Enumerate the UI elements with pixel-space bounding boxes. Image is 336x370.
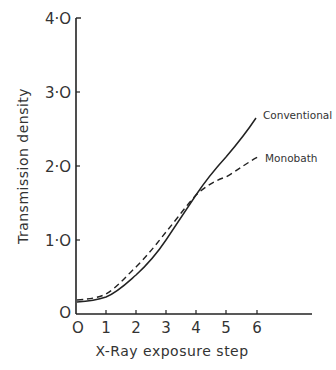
y-tick-labels: 4·O 3·O 2·O 1·O O (45, 10, 71, 322)
chart: 4·O 3·O 2·O 1·O O O 1 2 3 4 5 6 X-Ray ex… (0, 0, 336, 370)
x-tick-labels: O 1 2 3 4 5 6 (72, 319, 262, 337)
x-axis-label: X-Ray exposure step (95, 343, 248, 359)
x-axis (76, 310, 312, 314)
x-tick-0: O (72, 319, 84, 337)
series-conventional-line (77, 118, 256, 302)
legend-label-monobath: Monobath (265, 152, 317, 164)
legend-monobath: Monobath (265, 152, 317, 164)
x-tick-6: 6 (252, 319, 262, 337)
x-tick-2: 2 (131, 319, 141, 337)
series-monobath-line (77, 157, 258, 300)
y-tick-2: 2·O (45, 158, 71, 176)
y-axis-label: Transmission density (15, 88, 31, 245)
y-tick-4: 4·O (45, 10, 71, 28)
y-tick-1: 1·O (45, 232, 71, 250)
x-tick-3: 3 (161, 319, 171, 337)
y-tick-3: 3·O (45, 84, 71, 102)
y-tick-0: O (59, 304, 71, 322)
x-tick-5: 5 (221, 319, 231, 337)
x-tick-4: 4 (191, 319, 201, 337)
x-tick-1: 1 (101, 319, 111, 337)
legend-label-conventional: Conventional (263, 109, 332, 121)
y-axis (76, 18, 81, 314)
legend-conventional: Conventional (263, 109, 332, 121)
